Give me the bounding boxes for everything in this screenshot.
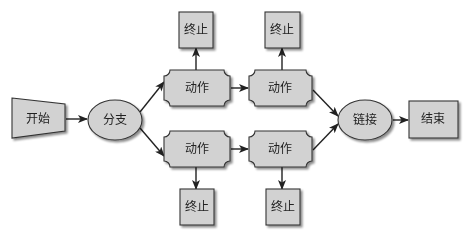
edge-action-bottom-2-join <box>313 124 338 150</box>
node-action-top-2[interactable]: 动作 <box>249 70 312 106</box>
edge-action-top-2-join <box>313 90 338 116</box>
node-branch-label: 分支 <box>103 113 127 127</box>
flow-diagram: 开始 分支 动作 动作 动作 动作 终止 <box>0 0 465 237</box>
node-terminate-bottom-2-label: 终止 <box>271 199 295 214</box>
node-start[interactable]: 开始 <box>12 98 65 138</box>
node-branch[interactable]: 分支 <box>88 100 142 140</box>
node-action-bottom-2-label: 动作 <box>268 142 292 156</box>
node-terminate-top-1-label: 终止 <box>184 22 208 37</box>
node-action-top-2-label: 动作 <box>268 81 292 95</box>
node-action-bottom-2[interactable]: 动作 <box>249 131 312 167</box>
node-terminate-bottom-1-label: 终止 <box>185 199 209 214</box>
node-action-bottom-1[interactable]: 动作 <box>164 131 230 167</box>
node-terminate-top-2[interactable]: 终止 <box>265 12 300 48</box>
node-end[interactable]: 结束 <box>409 101 458 138</box>
node-end-label: 结束 <box>421 112 445 126</box>
node-terminate-bottom-2[interactable]: 终止 <box>266 189 300 225</box>
edge-branch-action-top-1 <box>140 82 164 112</box>
node-join[interactable]: 链接 <box>338 100 392 140</box>
node-terminate-top-1[interactable]: 终止 <box>179 12 213 48</box>
node-join-label: 链接 <box>353 112 377 127</box>
edge-branch-action-bottom-1 <box>140 128 164 156</box>
node-terminate-top-2-label: 终止 <box>270 22 294 37</box>
node-action-top-1-label: 动作 <box>185 81 209 95</box>
node-action-bottom-1-label: 动作 <box>185 142 209 156</box>
node-action-top-1[interactable]: 动作 <box>164 70 230 106</box>
node-start-label: 开始 <box>26 112 50 126</box>
node-terminate-bottom-1[interactable]: 终止 <box>180 189 214 225</box>
